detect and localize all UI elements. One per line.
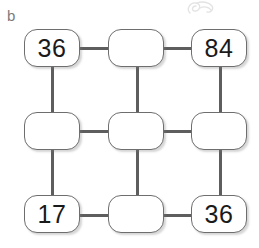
number-grid-puzzle: 36 84 17 36 [0, 0, 259, 248]
cell-r3c1[interactable]: 17 [24, 195, 80, 233]
cell-r1c2[interactable] [108, 29, 164, 67]
cell-r1c3[interactable]: 84 [191, 29, 247, 67]
connector-r2c1-r2c2 [78, 130, 111, 133]
connector-r2c2-r3c2 [136, 147, 139, 197]
connector-r1c2-r1c3 [162, 47, 193, 50]
connector-r2c1-r3c1 [51, 147, 54, 197]
cell-r3c3[interactable]: 36 [191, 195, 247, 233]
cell-value-r1c3: 84 [205, 36, 234, 61]
cell-value-r1c1: 36 [38, 36, 67, 61]
cell-r1c1[interactable]: 36 [24, 29, 80, 67]
cell-value-r3c1: 17 [38, 202, 67, 227]
connector-r1c3-r2c3 [219, 64, 222, 114]
connector-r3c1-r3c2 [78, 214, 111, 217]
connector-r1c1-r2c1 [51, 64, 54, 114]
connector-r3c2-r3c3 [162, 214, 193, 217]
cell-r2c2[interactable] [108, 112, 164, 150]
cell-r2c3[interactable] [191, 112, 247, 150]
figure-canvas: b 36 84 [0, 0, 259, 248]
cell-value-r3c3: 36 [205, 202, 234, 227]
connector-r2c3-r3c3 [219, 147, 222, 197]
cell-r2c1[interactable] [24, 112, 80, 150]
connector-r1c1-r1c2 [78, 47, 111, 50]
connector-r2c2-r2c3 [162, 130, 193, 133]
connector-r1c2-r2c2 [136, 64, 139, 114]
cell-r3c2[interactable] [108, 195, 164, 233]
